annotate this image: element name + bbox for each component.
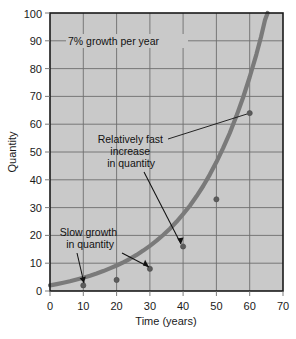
ylabel-100: 100 [24,8,42,20]
ylabel-10: 10 [30,257,42,269]
xlabel-60: 60 [244,300,256,312]
annotation-growth-rate: 7% growth per year [68,35,160,47]
xlabel-40: 40 [177,300,189,312]
marker-t50 [214,197,219,202]
y-axis-title: Quantity [6,131,18,172]
annotation-fast-line3: in quantity [107,157,156,169]
ylabel-80: 80 [30,63,42,75]
x-axis-tick-labels: 0 10 20 30 40 50 60 70 [47,300,289,312]
marker-t60 [247,111,252,116]
ylabel-50: 50 [30,146,42,158]
xlabel-10: 10 [77,300,89,312]
exponential-growth-chart: 0 10 20 30 40 50 60 70 80 90 100 0 10 [0,0,296,339]
xlabel-50: 50 [210,300,222,312]
annotation-fast-line2: increase [110,145,150,157]
ylabel-60: 60 [30,118,42,130]
xlabel-0: 0 [47,300,53,312]
xlabel-70: 70 [277,300,289,312]
marker-t40 [181,244,186,249]
ylabel-90: 90 [30,35,42,47]
x-axis-title: Time (years) [135,315,196,327]
annotation-fast-line1: Relatively fast [98,133,163,145]
chart-figure: 0 10 20 30 40 50 60 70 80 90 100 0 10 [0,0,296,339]
xlabel-30: 30 [144,300,156,312]
y-axis-tick-labels: 0 10 20 30 40 50 60 70 80 90 100 [24,8,42,298]
annotation-slow-line1: Slow growth [60,226,117,238]
xlabel-20: 20 [110,300,122,312]
annotation-slow-line2: in quantity [66,238,115,250]
ylabel-40: 40 [30,174,42,186]
ylabel-0: 0 [36,285,42,297]
ylabel-30: 30 [30,202,42,214]
marker-t10 [81,283,86,288]
ylabel-70: 70 [30,90,42,102]
ylabel-20: 20 [30,229,42,241]
marker-t20 [114,277,119,282]
